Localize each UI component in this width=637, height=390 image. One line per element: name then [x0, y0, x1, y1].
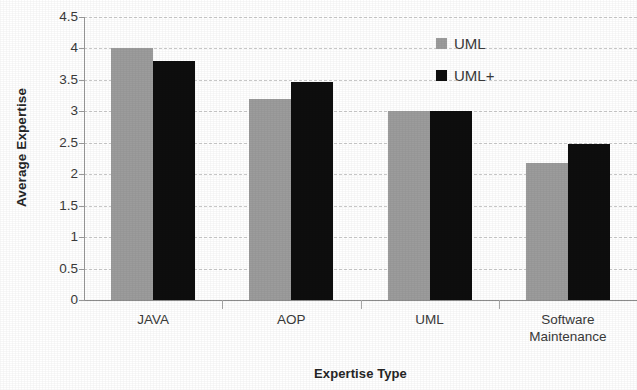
x-axis-category-label: AOP	[222, 311, 360, 328]
bar-group	[84, 17, 222, 300]
category-label-line: Software	[499, 311, 637, 328]
bar-group	[222, 17, 360, 300]
category-separator-tick	[361, 300, 362, 309]
x-axis-category-label: UML	[361, 311, 499, 328]
y-axis-tick-label: 4	[40, 42, 78, 56]
legend-swatch-umlplus	[436, 70, 447, 81]
x-axis-category-label: SoftwareMaintenance	[499, 311, 637, 345]
legend-swatch-uml	[436, 38, 447, 49]
y-axis-tick-label: 0.5	[40, 262, 78, 276]
legend-label: UML	[454, 36, 486, 51]
bar-umlplus	[568, 144, 610, 300]
x-axis-category-label: JAVA	[84, 311, 222, 328]
y-axis-tick-label: 3.5	[40, 73, 78, 87]
y-axis-title: Average Expertise	[14, 53, 29, 243]
x-axis-title: Expertise Type	[84, 366, 637, 381]
legend-item: UML	[436, 27, 586, 59]
y-axis-tick-label: 0	[40, 293, 78, 307]
bar-uml	[388, 111, 430, 300]
y-axis-tick-label: 2	[40, 167, 78, 181]
y-axis-tickmark	[79, 300, 85, 301]
y-axis-tick-label: 4.5	[40, 10, 78, 24]
category-label-line: JAVA	[84, 311, 222, 328]
bar-uml	[526, 163, 568, 300]
bar-uml	[249, 99, 291, 300]
bar-umlplus	[430, 111, 472, 300]
category-separator-tick	[222, 300, 223, 309]
category-label-line: UML	[361, 311, 499, 328]
y-axis-tick-label: 2.5	[40, 136, 78, 150]
category-label-line: Maintenance	[499, 328, 637, 345]
y-axis-tick-label: 1.5	[40, 199, 78, 213]
y-axis-tick-label: 1	[40, 230, 78, 244]
y-axis-tick-label: 3	[40, 105, 78, 119]
bar-umlplus	[291, 82, 333, 300]
legend-item: UML+	[436, 59, 586, 91]
category-separator-tick	[499, 300, 500, 309]
category-label-line: AOP	[222, 311, 360, 328]
x-axis-category-labels: JAVAAOPUMLSoftwareMaintenance	[84, 311, 637, 361]
bar-chart: Average Expertise 4.543.532.521.510.50 J…	[0, 0, 637, 390]
y-axis-tick-labels: 4.543.532.521.510.50	[40, 0, 78, 390]
bar-umlplus	[153, 61, 195, 300]
legend-label: UML+	[454, 68, 494, 83]
chart-legend: UMLUML+	[436, 27, 586, 91]
bar-uml	[111, 48, 153, 300]
